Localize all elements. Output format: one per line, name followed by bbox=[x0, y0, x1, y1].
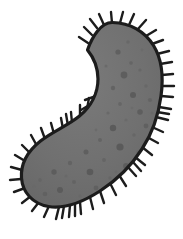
cytoplasm-granule bbox=[87, 169, 94, 176]
cytoplasm-granule bbox=[65, 175, 68, 178]
cytoplasm-granule bbox=[144, 124, 149, 129]
cytoplasm-granule bbox=[105, 65, 108, 68]
cytoplasm-granule bbox=[98, 138, 102, 142]
cytoplasm-granule bbox=[121, 72, 128, 79]
cytoplasm-granule bbox=[51, 169, 56, 174]
cytoplasm-granule bbox=[116, 143, 123, 150]
microorganism-illustration bbox=[0, 0, 183, 239]
cytoplasm-granule bbox=[115, 171, 118, 174]
cytoplasm-granule bbox=[78, 194, 81, 197]
cytoplasm-granule bbox=[106, 111, 109, 114]
cytoplasm-granule bbox=[57, 187, 63, 193]
cytoplasm-granule bbox=[151, 112, 154, 115]
cytoplasm-granule bbox=[129, 61, 133, 65]
cytoplasm-granule bbox=[43, 192, 48, 197]
cytoplasm-granule bbox=[95, 129, 98, 132]
cytoplasm-granule bbox=[118, 102, 122, 106]
cytoplasm-granule bbox=[84, 150, 89, 155]
cilium bbox=[161, 96, 173, 97]
cytoplasm-granule bbox=[148, 98, 152, 102]
cilium bbox=[80, 202, 81, 214]
cytoplasm-granule bbox=[38, 178, 42, 182]
cytoplasm-granule bbox=[130, 92, 136, 98]
cilium bbox=[162, 74, 173, 75]
illustration-canvas: Ciliated microorganism bbox=[0, 0, 183, 239]
cytoplasm-granule bbox=[126, 40, 129, 43]
cytoplasm-granule bbox=[132, 133, 136, 137]
cytoplasm-granule bbox=[108, 176, 112, 180]
cytoplasm-granule bbox=[102, 158, 106, 162]
cytoplasm-granule bbox=[115, 49, 120, 54]
cytoplasm-granule bbox=[125, 119, 128, 122]
cytoplasm-granule bbox=[131, 107, 134, 110]
cytoplasm-granule bbox=[72, 180, 76, 184]
cytoplasm-granule bbox=[138, 68, 141, 71]
cytoplasm-granule bbox=[144, 84, 147, 87]
cilium bbox=[10, 179, 21, 180]
cytoplasm-granule bbox=[110, 125, 116, 131]
cytoplasm-granule bbox=[137, 109, 143, 115]
cytoplasm-granule bbox=[33, 185, 36, 188]
cytoplasm-granule bbox=[141, 49, 144, 52]
cytoplasm-granule bbox=[94, 186, 99, 191]
cytoplasm-granule bbox=[68, 161, 72, 165]
cytoplasm-granule bbox=[111, 86, 115, 90]
